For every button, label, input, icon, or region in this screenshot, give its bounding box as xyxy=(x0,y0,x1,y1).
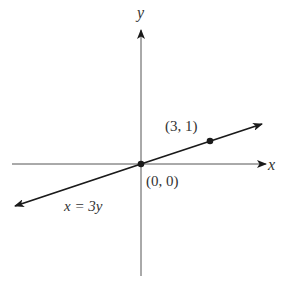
y-axis-label: y xyxy=(135,4,145,22)
point-3-1-label: (3, 1) xyxy=(165,118,198,135)
coordinate-plane: y x (3, 1) (0, 0) x = 3y xyxy=(0,0,281,284)
point-origin xyxy=(138,161,145,168)
x-axis-label: x xyxy=(267,156,275,173)
line-x-equals-3y-forward xyxy=(141,124,262,164)
origin-label: (0, 0) xyxy=(146,173,179,190)
equation-label: x = 3y xyxy=(63,198,103,214)
point-3-1 xyxy=(207,138,214,145)
